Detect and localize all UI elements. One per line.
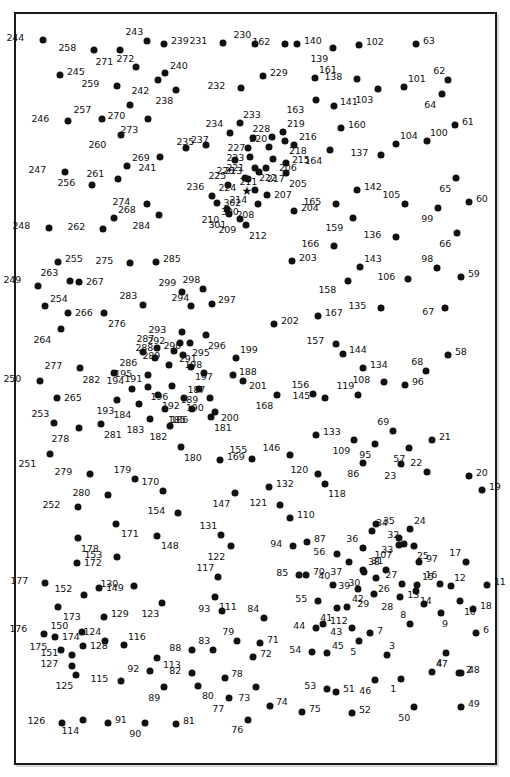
dot-number-label: 275 (95, 256, 113, 266)
dot-number-label: 163 (286, 105, 304, 115)
puzzle-dot (457, 598, 464, 605)
puzzle-dot (315, 598, 322, 605)
puzzle-dot (160, 488, 167, 495)
puzzle-dot (114, 397, 121, 404)
dot-number-label: 101 (408, 74, 426, 84)
puzzle-dot (113, 521, 120, 528)
puzzle-dot (396, 535, 403, 542)
dot-number-label: 157 (306, 336, 324, 346)
puzzle-dot (299, 709, 306, 716)
dot-number-label: 14 (420, 596, 432, 606)
puzzle-dot (360, 460, 367, 467)
puzzle-dot (67, 278, 74, 285)
dot-number-label: 43 (330, 627, 342, 637)
puzzle-dot (237, 120, 244, 127)
dot-number-label: 158 (318, 285, 336, 295)
puzzle-dot (91, 47, 98, 54)
dot-number-label: 241 (138, 163, 156, 173)
puzzle-dot (350, 215, 357, 222)
puzzle-dot (55, 259, 62, 266)
puzzle-dot (283, 160, 290, 167)
puzzle-dot (296, 572, 303, 579)
puzzle-dot (356, 42, 363, 49)
dot-number-label: 142 (364, 182, 382, 192)
puzzle-dot (331, 243, 338, 250)
dot-number-label: 289 (142, 351, 160, 361)
puzzle-dot (127, 102, 134, 109)
dot-number-label: 203 (299, 253, 317, 263)
dot-number-label: 18 (480, 601, 492, 611)
dot-number-label: 238 (155, 96, 173, 106)
puzzle-dot (458, 670, 465, 677)
puzzle-dot (228, 543, 235, 550)
puzzle-dot (333, 689, 340, 696)
puzzle-dot (87, 471, 94, 478)
dot-number-label: 76 (231, 725, 243, 735)
puzzle-dot (225, 182, 232, 189)
dot-number-label: 93 (198, 604, 210, 614)
dot-number-label: 75 (309, 704, 321, 714)
puzzle-dot (47, 451, 54, 458)
puzzle-dot (437, 581, 444, 588)
dot-number-label: 159 (325, 223, 343, 233)
dot-number-label: 121 (249, 498, 267, 508)
dot-number-label: 260 (88, 140, 106, 150)
dot-number-label: 24 (414, 516, 426, 526)
puzzle-dot (479, 487, 486, 494)
puzzle-dot (69, 663, 76, 670)
dot-number-label: 273 (120, 125, 138, 135)
puzzle-dot (452, 122, 459, 129)
puzzle-dot (253, 684, 260, 691)
dot-number-label: 148 (161, 541, 179, 551)
dot-number-label: 89 (148, 693, 160, 703)
puzzle-dot (438, 610, 445, 617)
puzzle-dot (267, 703, 274, 710)
dot-number-label: 178 (81, 544, 99, 554)
dot-number-label: 81 (183, 716, 195, 726)
puzzle-dot (381, 379, 388, 386)
dot-number-label: 286 (119, 358, 137, 368)
puzzle-dot (55, 604, 62, 611)
dot-number-label: 248 (12, 221, 30, 231)
puzzle-dot (232, 157, 239, 164)
dot-number-label: 242 (131, 86, 149, 96)
dot-number-label: 269 (132, 153, 150, 163)
puzzle-dot (340, 351, 347, 358)
dot-number-label: 67 (422, 307, 434, 317)
puzzle-dot (73, 672, 80, 679)
puzzle-dot (369, 528, 376, 535)
puzzle-dot (58, 326, 65, 333)
puzzle-dot (62, 169, 69, 176)
puzzle-dot (398, 676, 405, 683)
dot-number-label: 94 (270, 539, 282, 549)
dot-number-label: 88 (169, 643, 181, 653)
puzzle-dot (59, 720, 66, 727)
dot-number-label: 200 (221, 413, 239, 423)
dot-number-label: 176 (9, 624, 27, 634)
puzzle-dot (35, 283, 42, 290)
puzzle-dot (378, 305, 385, 312)
puzzle-dot (100, 226, 107, 233)
puzzle-dot (154, 533, 161, 540)
puzzle-dot (313, 432, 320, 439)
puzzle-dot (74, 560, 81, 567)
puzzle-dot (127, 260, 134, 267)
puzzle-dot (407, 526, 414, 533)
puzzle-dot (291, 208, 298, 215)
dot-number-label: 48 (468, 665, 480, 675)
puzzle-dot (357, 264, 364, 271)
dot-number-label: 154 (147, 506, 165, 516)
puzzle-dot (249, 456, 256, 463)
puzzle-dot (145, 384, 152, 391)
dot-number-label: 261 (86, 169, 104, 179)
dot-number-label: 276 (108, 319, 126, 329)
puzzle-dot (118, 678, 125, 685)
dot-number-label: 237 (191, 135, 209, 145)
puzzle-dot (222, 675, 229, 682)
dot-number-label: 226 (216, 166, 234, 176)
dot-number-label: 125 (55, 681, 73, 691)
puzzle-dot (371, 591, 378, 598)
dot-number-label: 109 (332, 446, 350, 456)
puzzle-dot (147, 668, 154, 675)
dot-number-label: 186 (170, 415, 188, 425)
